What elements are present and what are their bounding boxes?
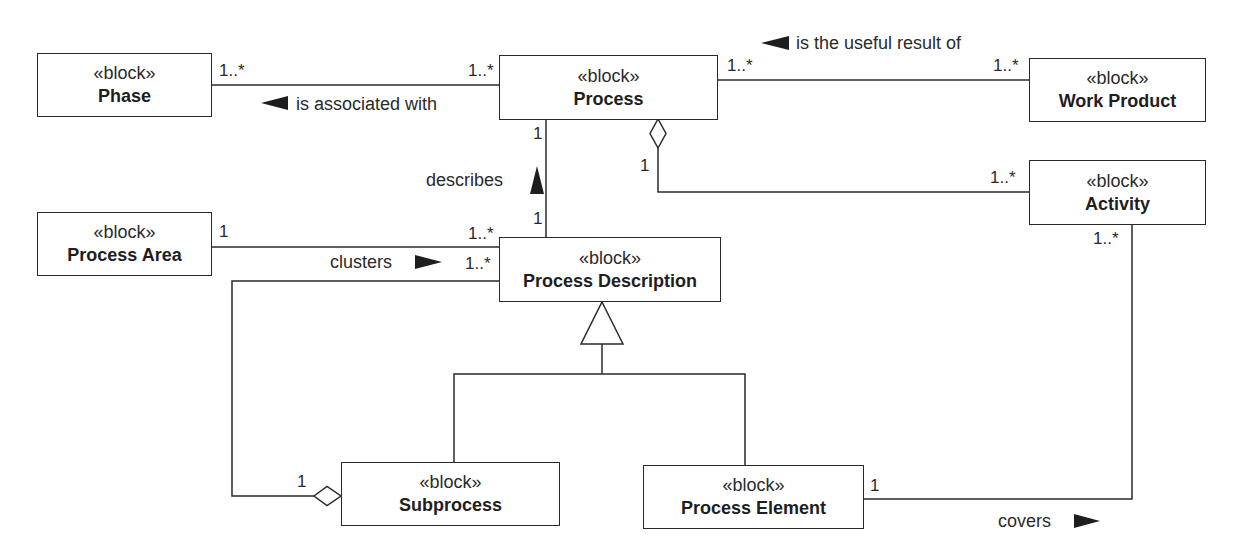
label-is-useful-result-of: is the useful result of — [796, 33, 961, 53]
multiplicity: 1..* — [1093, 230, 1119, 248]
label-describes: describes — [426, 170, 503, 190]
block-activity[interactable]: «block» Activity — [1029, 160, 1206, 225]
multiplicity: 1 — [870, 477, 879, 495]
block-name: Phase — [98, 84, 151, 108]
aggregation-diamond-subprocess — [314, 487, 341, 506]
generalization-branch — [454, 374, 745, 465]
block-phase[interactable]: «block» Phase — [37, 53, 212, 117]
multiplicity: 1 — [640, 157, 649, 175]
block-process-element[interactable]: «block» Process Element — [643, 465, 864, 529]
direction-arrow-left-icon — [761, 36, 789, 50]
multiplicity: 1..* — [990, 169, 1016, 187]
block-name: Work Product — [1059, 89, 1177, 113]
stereotype-label: «block» — [93, 62, 155, 84]
direction-arrow-right-icon — [1074, 514, 1100, 528]
association-covers — [863, 224, 1132, 499]
block-work-product[interactable]: «block» Work Product — [1029, 58, 1206, 122]
stereotype-label: «block» — [419, 471, 481, 493]
stereotype-label: «block» — [93, 221, 155, 243]
block-process-description[interactable]: «block» Process Description — [499, 237, 721, 302]
multiplicity: 1..* — [465, 255, 491, 273]
stereotype-label: «block» — [1086, 67, 1148, 89]
aggregation-diamond-process — [650, 119, 666, 148]
stereotype-label: «block» — [579, 247, 641, 269]
label-clusters: clusters — [330, 252, 392, 272]
block-name: Process Area — [67, 243, 181, 267]
multiplicity: 1..* — [219, 62, 245, 80]
block-subprocess[interactable]: «block» Subprocess — [341, 462, 560, 526]
multiplicity: 1 — [219, 223, 228, 241]
aggregation-process-activity — [658, 148, 1029, 192]
block-name: Process — [573, 87, 643, 111]
block-name: Process Description — [523, 269, 697, 293]
stereotype-label: «block» — [1086, 170, 1148, 192]
stereotype-label: «block» — [722, 474, 784, 496]
multiplicity: 1..* — [468, 62, 494, 80]
block-process-area[interactable]: «block» Process Area — [37, 212, 212, 276]
multiplicity: 1 — [533, 210, 542, 228]
generalization-triangle — [581, 302, 623, 344]
block-name: Subprocess — [399, 493, 502, 517]
direction-arrow-right-icon — [415, 255, 442, 269]
stereotype-label: «block» — [577, 65, 639, 87]
block-process[interactable]: «block» Process — [499, 55, 718, 120]
multiplicity: 1..* — [727, 57, 753, 75]
direction-arrow-up-icon — [530, 166, 544, 194]
multiplicity: 1..* — [993, 57, 1019, 75]
label-is-associated-with: is associated with — [296, 94, 437, 114]
label-covers: covers — [998, 511, 1051, 531]
block-name: Process Element — [681, 496, 826, 520]
multiplicity: 1..* — [468, 225, 494, 243]
block-name: Activity — [1085, 192, 1150, 216]
multiplicity: 1 — [297, 473, 306, 491]
direction-arrow-left-icon — [261, 96, 288, 110]
multiplicity: 1 — [533, 125, 542, 143]
